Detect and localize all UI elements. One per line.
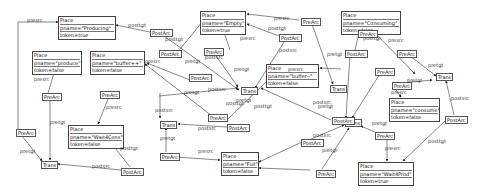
edge-label: presrc	[391, 89, 407, 95]
postarc-node[interactable]: PostArc	[189, 74, 212, 82]
edge-label: presrc	[240, 35, 256, 41]
place-node[interactable]: Placepname="Wait4Prod"token=true	[358, 162, 414, 186]
place-node[interactable]: Placepname="Wait4Cons"token=false	[68, 125, 124, 149]
postarc-node[interactable]: PostArc	[332, 117, 355, 125]
transition-node[interactable]: Trans	[41, 161, 58, 169]
edge-label: pretgt	[50, 119, 65, 125]
edge-label: presrc	[274, 15, 290, 21]
prearc-node[interactable]: PreArc	[301, 18, 321, 26]
transition-node[interactable]: Trans	[160, 121, 177, 129]
place-node[interactable]: Placepname="Producing"token=true	[58, 16, 116, 40]
edge-label: presrc	[145, 58, 161, 64]
edge-label: presrc	[106, 104, 122, 110]
edge-label: posttgt	[128, 22, 146, 28]
edge-label: postsrc	[208, 86, 226, 92]
edge-label: pretgt	[428, 62, 443, 68]
edge-label: presrc	[385, 145, 401, 151]
edge-label: postsrc	[198, 125, 216, 131]
place-name: pname="consume"	[391, 106, 438, 114]
petri-net-canvas: Placepname="Producing"token=truePlacepna…	[0, 0, 484, 193]
edge-label: presrc	[288, 66, 304, 72]
prearc-node[interactable]: PreArc	[375, 68, 395, 76]
edge-label: pretgt	[322, 147, 337, 153]
edge-label: pretgt	[184, 89, 199, 95]
place-name: pname="produce"	[34, 59, 80, 67]
place-node[interactable]: Placepname="Empty"token=true	[200, 11, 246, 35]
place-node[interactable]: Placepname="consume"token=false	[389, 98, 440, 122]
edge-label: pretgt	[20, 148, 35, 154]
prearc-node[interactable]: PreArc	[397, 50, 417, 58]
prearc-node[interactable]: PreArc	[42, 93, 62, 101]
edge-label: pretgt	[318, 103, 333, 109]
place-token: token=false	[223, 167, 257, 175]
place-token: token=true	[360, 177, 412, 185]
place-token: token=true	[60, 31, 114, 39]
prearc-node[interactable]: PreArc	[160, 153, 180, 161]
prearc-node[interactable]: PreArc	[316, 170, 336, 178]
postarc-node[interactable]: PostArc	[445, 116, 468, 124]
edge-label: posttgt	[363, 35, 381, 41]
place-name: pname="Producing"	[60, 24, 114, 32]
place-token: token=true	[202, 26, 244, 34]
transition-node[interactable]: Trans	[241, 87, 258, 95]
place-node[interactable]: Placepname="Full"token=false	[221, 152, 259, 176]
place-token: token=false	[70, 140, 122, 148]
edge-label: postsrc	[205, 54, 223, 60]
edge-label: pretgt	[327, 51, 342, 57]
prearc-node[interactable]: PreArc	[16, 129, 36, 137]
postarc-node[interactable]: PostArc	[227, 124, 250, 132]
postarc-node[interactable]: PostArc	[279, 34, 302, 42]
place-token: token=false	[34, 66, 80, 74]
edge-label: pretgt	[236, 97, 251, 103]
edge-label: postsrc	[313, 132, 331, 138]
place-name: pname="Wait4Prod"	[360, 170, 412, 178]
place-name: pname="Wait4Cons"	[70, 133, 122, 141]
prearc-node[interactable]: PreArc	[100, 91, 120, 99]
prearc-node[interactable]: PreArc	[375, 132, 395, 140]
edge-label: pretgt	[407, 77, 422, 83]
edge-label: presrc	[27, 17, 43, 23]
edge-label: posttgt	[428, 138, 446, 144]
edge-label: posttgt	[165, 36, 183, 42]
edge-label: postsrc	[279, 47, 297, 53]
prearc-node[interactable]: PreArc	[208, 114, 228, 122]
postarc-node[interactable]: PostArc	[345, 50, 368, 58]
edge-label: posttgt	[268, 25, 286, 31]
edge-label: presrc	[198, 148, 214, 154]
edge-label: presrc	[34, 76, 50, 82]
postarc-node[interactable]: PostArc	[159, 50, 182, 58]
edge-label: pretgt	[160, 135, 175, 141]
place-name: pname="Full"	[223, 160, 257, 168]
place-node[interactable]: Placepname="produce"token=false	[32, 51, 82, 75]
transition-node[interactable]: Trans	[436, 73, 453, 81]
place-name: pname="buffer++"	[92, 59, 143, 67]
place-token: token=false	[391, 113, 438, 121]
edge-label: pretgt	[185, 58, 200, 64]
place-name: pname="Empty"	[202, 19, 244, 27]
edge-label: posttgt	[120, 145, 138, 151]
place-name: pname="buffer--"	[268, 72, 317, 80]
edge-label: postsrc	[155, 107, 173, 113]
edge-label: postsrc	[92, 163, 110, 169]
place-name: pname="Consuming"	[343, 19, 399, 27]
place-token: token=false	[268, 79, 317, 87]
postarc-node[interactable]: PostArc	[121, 168, 144, 176]
postarc-node[interactable]: PostArc	[301, 139, 324, 147]
edge-label: postsrc	[451, 95, 469, 101]
edge-label: presrc	[388, 37, 404, 43]
edge-label: posttgt	[254, 103, 272, 109]
edge-label: pretgt	[234, 66, 249, 72]
transition-node[interactable]: Trans	[330, 85, 347, 93]
edge-label: pretgt	[372, 120, 387, 126]
place-node[interactable]: Placepname="buffer++"token=false	[90, 51, 145, 75]
place-token: token=false	[92, 66, 143, 74]
